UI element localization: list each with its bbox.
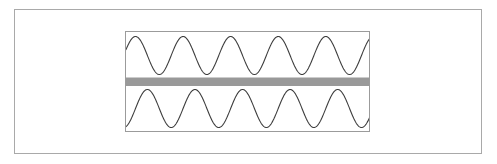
waveform-plot: [126, 32, 370, 132]
lower-waveform-line: [126, 90, 370, 128]
upper-waveform-line: [126, 37, 370, 75]
waveform-panel: [125, 31, 370, 132]
figure-root: [0, 0, 497, 164]
gray-separator-band: [126, 78, 370, 87]
outer-border: [14, 9, 482, 154]
